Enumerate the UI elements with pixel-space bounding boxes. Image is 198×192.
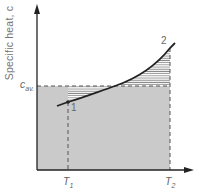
specific-heat-diagram	[0, 0, 198, 192]
t2-subscript: 2	[171, 182, 175, 189]
point-1-label: 1	[71, 102, 77, 113]
x-axis-arrow-icon	[184, 167, 194, 173]
hatched-region-right	[115, 48, 170, 86]
t1-subscript: 1	[69, 182, 73, 189]
y-axis-arrow-icon	[34, 4, 40, 14]
point-1-marker	[66, 100, 70, 104]
t1-label: T1	[63, 175, 73, 189]
average-area-fill	[37, 86, 170, 170]
point-2-label: 2	[161, 35, 167, 46]
t2-label: T2	[165, 175, 175, 189]
c-average-subscript: av.	[25, 85, 34, 92]
y-axis-label: Specific heat, c	[3, 3, 17, 83]
c-average-label: cav.	[20, 78, 34, 92]
